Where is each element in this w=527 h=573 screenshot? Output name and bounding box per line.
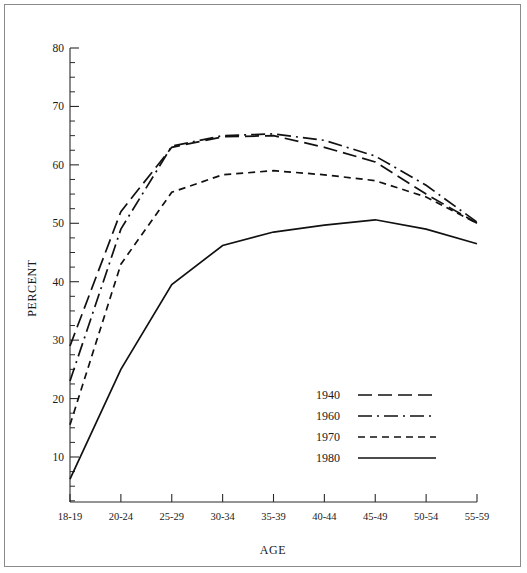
legend-label-1970: 1970 — [316, 430, 340, 444]
y-axis: 8070605040302010 — [53, 42, 80, 502]
series-line-1980 — [70, 220, 477, 479]
series-line-1940 — [70, 136, 477, 346]
y-tick-label-30: 30 — [53, 334, 65, 346]
chart-container: 8070605040302010 18-1920-2425-2930-3435-… — [5, 5, 522, 568]
chart-legend: 1940196019701980 — [316, 388, 436, 465]
x-tick-label-30-34: 30-34 — [210, 511, 235, 522]
legend-label-1940: 1940 — [316, 388, 340, 402]
data-series-group — [70, 134, 477, 479]
legend-label-1960: 1960 — [316, 409, 340, 423]
y-tick-label-70: 70 — [53, 100, 65, 112]
x-tick-label-50-54: 50-54 — [414, 511, 439, 522]
y-tick-label-40: 40 — [53, 276, 65, 288]
x-axis-title: AGE — [260, 543, 286, 557]
x-tick-label-35-39: 35-39 — [261, 511, 286, 522]
x-tick-label-40-44: 40-44 — [312, 511, 337, 522]
line-chart: 8070605040302010 18-1920-2425-2930-3435-… — [5, 5, 522, 568]
y-tick-label-60: 60 — [53, 159, 65, 171]
x-tick-label-45-49: 45-49 — [363, 511, 388, 522]
y-tick-label-10: 10 — [53, 451, 65, 463]
x-tick-label-18-19: 18-19 — [58, 511, 83, 522]
series-line-1970 — [70, 171, 477, 425]
y-tick-label-50: 50 — [53, 217, 65, 229]
x-axis: 18-1920-2425-2930-3435-3940-4445-4950-54… — [58, 494, 490, 522]
y-axis-title: PERCENT — [25, 259, 39, 317]
x-tick-label-25-29: 25-29 — [160, 511, 185, 522]
y-tick-label-80: 80 — [53, 42, 65, 54]
x-tick-label-55-59: 55-59 — [465, 511, 490, 522]
legend-label-1980: 1980 — [316, 451, 340, 465]
y-tick-label-20: 20 — [53, 393, 65, 405]
figure-frame: 8070605040302010 18-1920-2425-2930-3435-… — [4, 4, 521, 567]
x-tick-label-20-24: 20-24 — [109, 511, 134, 522]
